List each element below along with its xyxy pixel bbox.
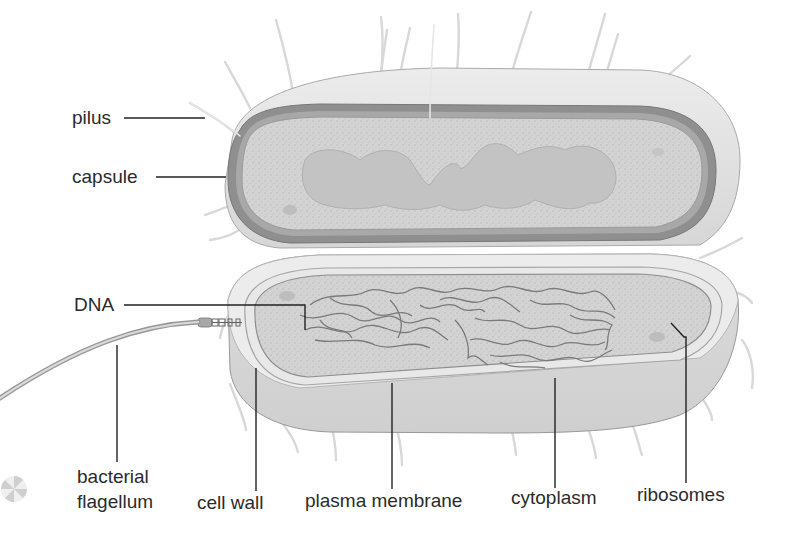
- label-bacterial-flagellum-line1: bacterial: [77, 466, 149, 488]
- label-plasma-membrane: plasma membrane: [305, 490, 462, 512]
- label-capsule: capsule: [72, 166, 138, 188]
- label-pilus: pilus: [72, 107, 111, 129]
- cell-bottom-half: [0, 254, 739, 433]
- flagellum-filament: [0, 322, 198, 398]
- label-cell-wall: cell wall: [197, 492, 264, 514]
- cell-top-half: [190, 25, 740, 248]
- pinwheel-logo-icon: [1, 476, 27, 502]
- label-ribosomes: ribosomes: [637, 484, 725, 506]
- label-dna: DNA: [74, 294, 114, 316]
- label-bacterial-flagellum-line2: flagellum: [77, 491, 153, 513]
- label-cytoplasm: cytoplasm: [511, 487, 597, 509]
